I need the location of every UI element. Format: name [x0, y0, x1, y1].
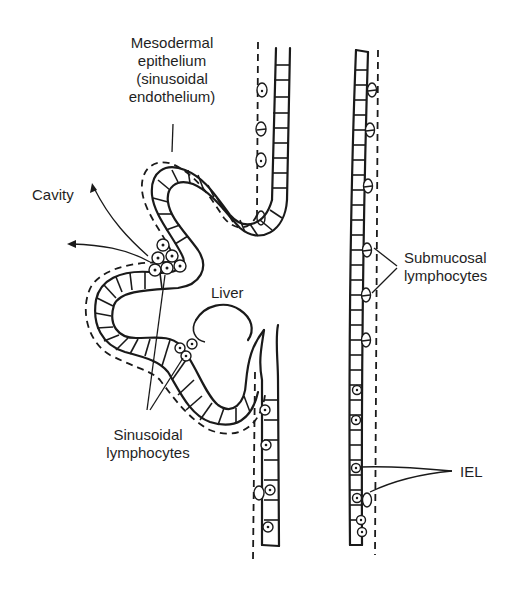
label-line: (sinusoidal	[112, 70, 232, 88]
diagram-drawing	[0, 0, 527, 605]
label-line: lymphocytes	[78, 444, 218, 462]
label-cavity: Cavity	[32, 186, 74, 204]
gut-liver-diagram: Mesodermal epithelium (sinusoidal endoth…	[0, 0, 527, 605]
label-sinusoidal-lymphocytes: Sinusoidal lymphocytes	[78, 426, 218, 462]
label-submucosal-lymphocytes: Submucosal lymphocytes	[404, 249, 487, 285]
sinusoidal-lymphocyte-cluster-upper	[149, 239, 186, 276]
label-line: epithelium	[112, 52, 232, 70]
left-gut-wall-lower	[253, 325, 279, 560]
label-liver: Liver	[211, 284, 244, 302]
label-line: endothelium)	[112, 88, 232, 106]
left-gut-wall	[256, 42, 290, 225]
label-line: Sinusoidal	[78, 426, 218, 444]
label-mesodermal-epithelium: Mesodermal epithelium (sinusoidal endoth…	[112, 34, 232, 106]
label-line: lymphocytes	[404, 267, 487, 285]
right-gut-wall	[349, 50, 378, 555]
label-line: Mesodermal	[112, 34, 232, 52]
label-line: Submucosal	[404, 249, 487, 267]
label-iel: IEL	[460, 463, 483, 481]
